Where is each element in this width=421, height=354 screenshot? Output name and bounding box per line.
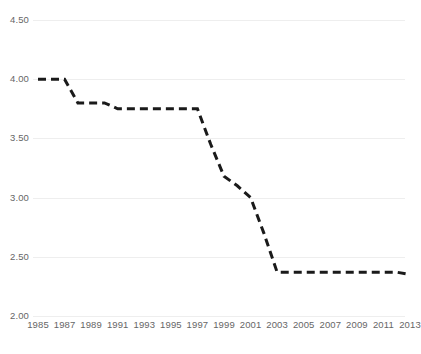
x-tick-label: 2001 bbox=[240, 320, 262, 330]
x-tick-label: 1995 bbox=[160, 320, 182, 330]
x-tick-label: 1985 bbox=[27, 320, 49, 330]
x-tick-label: 2003 bbox=[266, 320, 288, 330]
x-tick-label: 1997 bbox=[187, 320, 209, 330]
y-axis: 4.50 4.00 3.50 3.00 2.50 2.00 bbox=[0, 20, 29, 316]
y-tick-label: 3.50 bbox=[1, 133, 29, 143]
data-series-line bbox=[33, 20, 405, 316]
x-tick-label: 1987 bbox=[54, 320, 76, 330]
x-tick-label: 2005 bbox=[293, 320, 315, 330]
gridline bbox=[33, 316, 405, 317]
x-tick-label: 2009 bbox=[346, 320, 368, 330]
y-tick-label: 2.00 bbox=[1, 311, 29, 321]
x-tick-label: 2013 bbox=[399, 320, 421, 330]
plot-area bbox=[33, 20, 405, 316]
x-axis: 1985 1987 1989 1991 1993 1995 1997 1999 … bbox=[33, 320, 405, 340]
x-tick-label: 1993 bbox=[134, 320, 156, 330]
x-tick-label: 1989 bbox=[80, 320, 102, 330]
y-tick-label: 2.50 bbox=[1, 252, 29, 262]
x-tick-label: 2011 bbox=[373, 320, 394, 330]
y-tick-label: 4.00 bbox=[1, 74, 29, 84]
y-tick-label: 3.00 bbox=[1, 193, 29, 203]
x-tick-label: 1999 bbox=[213, 320, 235, 330]
x-tick-label: 1991 bbox=[107, 320, 129, 330]
y-tick-label: 4.50 bbox=[1, 15, 29, 25]
x-tick-label: 2007 bbox=[320, 320, 342, 330]
